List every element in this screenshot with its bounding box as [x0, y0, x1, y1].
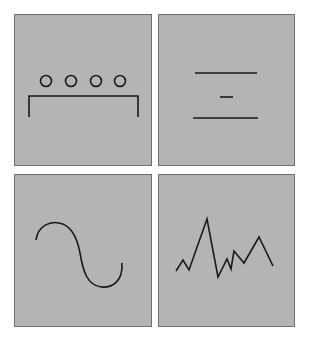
panel-sine-wave [14, 174, 152, 327]
circles-bracket-icon [15, 15, 153, 167]
circle-4 [115, 76, 126, 87]
horizontal-lines-icon [159, 15, 296, 167]
zigzag-icon [159, 175, 296, 328]
panel-horizontal-lines [158, 14, 295, 166]
panel-circles-bracket [14, 14, 152, 166]
panel-zigzag [158, 174, 295, 327]
circle-3 [91, 76, 102, 87]
sine-wave-icon [15, 175, 153, 328]
circle-1 [41, 76, 52, 87]
sine-curve [36, 223, 122, 288]
zigzag-line [176, 219, 273, 277]
bracket [29, 96, 138, 117]
circle-2 [66, 76, 77, 87]
